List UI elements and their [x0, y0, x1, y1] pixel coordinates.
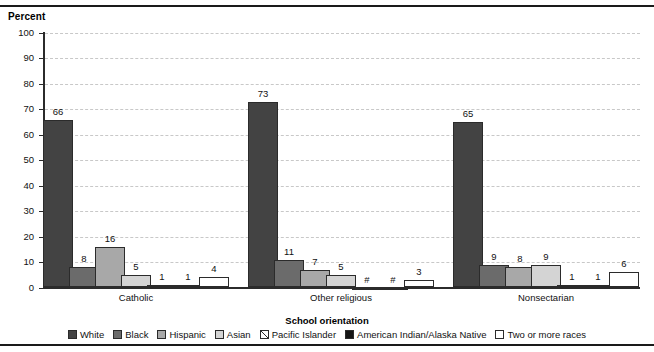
bar-value-label: 8	[64, 253, 104, 264]
legend-label: Pacific Islander	[272, 329, 336, 340]
bar-value-label: 5	[321, 261, 361, 272]
legend-label: Black	[125, 329, 148, 340]
legend-item[interactable]: Two or more races	[495, 329, 586, 340]
bar-value-label: 3	[399, 266, 439, 277]
bar-value-label: 1	[578, 271, 618, 282]
chart-legend: WhiteBlackHispanicAsianPacific IslanderA…	[0, 329, 654, 340]
legend-swatch-icon	[215, 330, 224, 339]
bar	[378, 288, 408, 290]
legend-item[interactable]: American Indian/Alaska Native	[345, 329, 486, 340]
bar-value-label: 6	[604, 258, 644, 269]
bar-value-label: 16	[90, 233, 130, 244]
legend-item[interactable]: Hispanic	[157, 329, 205, 340]
legend-item[interactable]: Black	[113, 329, 148, 340]
legend-label: Two or more races	[507, 329, 586, 340]
bar-value-label: 73	[243, 88, 283, 99]
legend-swatch-icon	[113, 330, 122, 339]
legend-label: American Indian/Alaska Native	[357, 329, 486, 340]
legend-label: White	[80, 329, 104, 340]
legend-label: Asian	[227, 329, 251, 340]
x-group-label: Nonsectarian	[433, 292, 654, 303]
x-axis-title: School orientation	[0, 315, 654, 326]
bar	[453, 122, 483, 287]
legend-item[interactable]: Asian	[215, 329, 251, 340]
chart-figure: Percent 1009080706050403020100 668165114…	[0, 0, 654, 352]
legend-swatch-icon	[260, 330, 269, 339]
legend-item[interactable]: White	[68, 329, 104, 340]
legend-label: Hispanic	[169, 329, 205, 340]
legend-swatch-icon	[345, 330, 354, 339]
x-group-label: Catholic	[23, 292, 249, 303]
bar-value-label: 66	[38, 106, 78, 117]
bar-value-label: 65	[448, 108, 488, 119]
x-group-label: Other religious	[228, 292, 454, 303]
bars-layer	[0, 0, 654, 288]
legend-item[interactable]: Pacific Islander	[260, 329, 336, 340]
bar-value-label: 4	[194, 263, 234, 274]
legend-swatch-icon	[157, 330, 166, 339]
legend-swatch-icon	[68, 330, 77, 339]
legend-swatch-icon	[495, 330, 504, 339]
bar-value-label: 9	[526, 251, 566, 262]
plot-area: 1009080706050403020100 668165114731175##…	[0, 0, 654, 352]
